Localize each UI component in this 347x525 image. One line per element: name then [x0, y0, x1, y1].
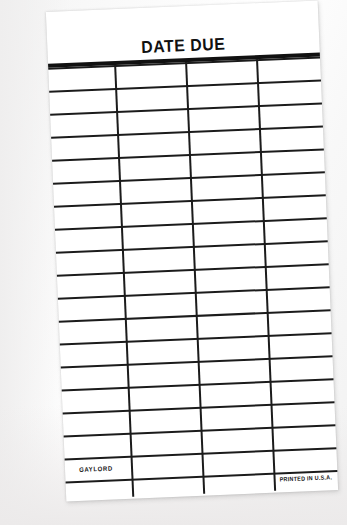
date-due-card: DATE DUE GAYLORD PRINTED IN U.S.A. — [46, 1, 338, 502]
card-wrapper: DATE DUE GAYLORD PRINTED IN U.S.A. — [46, 1, 338, 502]
grid-column-divider — [114, 65, 134, 497]
date-grid — [48, 56, 338, 501]
scanned-date-due-card: DATE DUE GAYLORD PRINTED IN U.S.A. — [0, 0, 347, 525]
publisher-label: GAYLORD — [79, 465, 113, 473]
